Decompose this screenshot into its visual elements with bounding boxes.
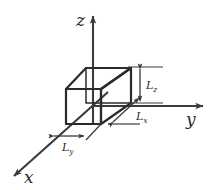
cuboid-right-face bbox=[101, 68, 131, 124]
lx-label-sub: x bbox=[143, 116, 148, 125]
dimension-lx: Lx bbox=[108, 98, 148, 125]
lz-label: Lz bbox=[145, 79, 157, 94]
ly-label-sub: y bbox=[68, 147, 74, 156]
ly-label-main: L bbox=[61, 141, 69, 154]
lx-label: Lx bbox=[135, 110, 148, 125]
axis-group bbox=[14, 16, 203, 176]
figure-container: Lz Lx Ly z y x bbox=[0, 0, 214, 190]
axis-line-x bbox=[14, 92, 108, 176]
lz-label-main: L bbox=[145, 79, 153, 92]
dimension-lz: Lz bbox=[128, 67, 163, 103]
dimension-ly: Ly bbox=[54, 124, 101, 156]
axis-label-z: z bbox=[75, 10, 86, 30]
cuboid-shape bbox=[66, 68, 131, 124]
ly-extension-right bbox=[86, 124, 101, 140]
coordinate-box-diagram: Lz Lx Ly z y x bbox=[0, 0, 214, 190]
lz-label-sub: z bbox=[152, 85, 157, 94]
axis-label-y: y bbox=[185, 109, 196, 129]
cuboid-top-face bbox=[66, 68, 131, 89]
ly-label: Ly bbox=[61, 141, 74, 156]
axis-label-x: x bbox=[24, 167, 34, 187]
lx-label-main: L bbox=[135, 110, 143, 123]
